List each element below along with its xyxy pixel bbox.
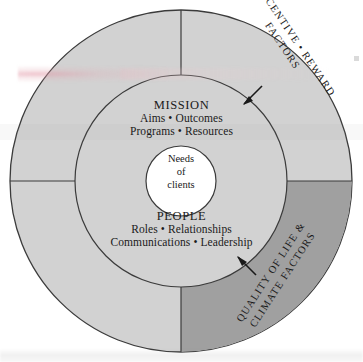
mission-heading: MISSION	[0, 98, 363, 112]
center-core-label: Needs of clients	[146, 153, 216, 191]
mission-line-2: Programs • Resources	[0, 125, 363, 138]
center-line-1: Needs	[146, 153, 216, 166]
mission-line-1: Aims • Outcomes	[0, 112, 363, 125]
mission-block: MISSION Aims • Outcomes Programs • Resou…	[0, 98, 363, 138]
center-line-3: clients	[146, 179, 216, 192]
center-line-2: of	[146, 166, 216, 179]
